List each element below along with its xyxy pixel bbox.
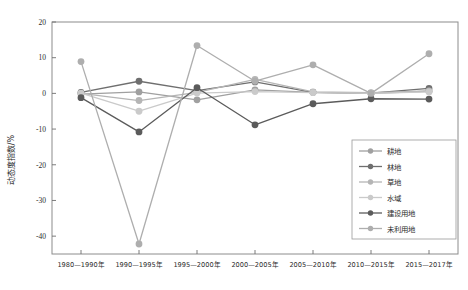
x-tick-label: 2015—2017年	[405, 260, 452, 269]
data-point	[136, 89, 143, 96]
x-axis: 1980—1990年1990—1995年1995—2000年2000—2005年…	[57, 250, 452, 269]
y-axis-title: 动态度指数/%	[6, 134, 16, 185]
data-point	[252, 78, 259, 85]
y-tick-label: -30	[36, 196, 46, 205]
x-tick-label: 2005—2010年	[289, 260, 336, 269]
data-point	[426, 89, 433, 96]
legend-item-3[interactable]: 草地	[359, 178, 402, 187]
series-layer	[78, 42, 433, 247]
data-point	[368, 90, 375, 97]
series-line	[81, 46, 429, 244]
dynamic-degree-index-line-chart: 20100-10-20-30-40 动态度指数/% 1980—1990年1990…	[0, 0, 468, 290]
data-point	[78, 58, 85, 65]
legend-label: 草地	[387, 178, 402, 187]
data-point	[136, 129, 143, 136]
legend-marker-icon	[368, 148, 373, 153]
legend-marker-icon	[368, 179, 373, 184]
y-tick-label: -20	[36, 161, 46, 170]
legend-label: 林地	[387, 163, 402, 172]
data-point	[252, 121, 259, 128]
y-axis: 20100-10-20-30-40	[36, 18, 56, 241]
data-point	[136, 241, 143, 248]
chart-legend: 耕地林地草地水域建设用地未利用地	[352, 140, 456, 239]
data-point	[310, 100, 317, 107]
data-point	[194, 84, 201, 91]
legend-marker-icon	[368, 164, 373, 169]
legend-marker-icon	[368, 226, 373, 231]
legend-label: 建设用地	[387, 209, 416, 218]
y-tick-label: -40	[36, 232, 46, 241]
x-tick-label: 1990—1995年	[115, 260, 162, 269]
data-point	[252, 88, 259, 95]
data-point	[78, 94, 85, 101]
plot-frame	[52, 22, 458, 254]
data-point	[194, 42, 201, 49]
legend-item-5[interactable]: 建设用地	[359, 209, 416, 218]
legend-label: 未利用地	[387, 225, 416, 234]
legend-item-6[interactable]: 未利用地	[359, 225, 416, 234]
legend-marker-icon	[368, 195, 373, 200]
legend-item-1[interactable]: 耕地	[359, 147, 402, 156]
data-point	[136, 78, 143, 85]
data-point	[426, 50, 433, 57]
y-tick-label: -10	[36, 125, 46, 134]
legend-item-2[interactable]: 林地	[359, 163, 402, 172]
data-point	[426, 96, 433, 103]
data-point	[136, 108, 143, 115]
chart-container: 20100-10-20-30-40 动态度指数/% 1980—1990年1990…	[0, 0, 468, 290]
legend-marker-icon	[368, 210, 373, 215]
y-tick-label: 0	[42, 89, 46, 98]
series-6	[78, 42, 433, 247]
legend-label: 耕地	[387, 147, 402, 156]
x-tick-label: 1995—2000年	[173, 260, 220, 269]
data-point	[136, 97, 143, 104]
data-point	[310, 61, 317, 68]
x-tick-label: 2010—2015年	[347, 260, 394, 269]
legend-item-4[interactable]: 水域	[359, 194, 402, 203]
y-tick-label: 20	[39, 18, 47, 27]
legend-label: 水域	[387, 194, 402, 203]
data-point	[310, 89, 317, 96]
x-tick-label: 2000—2005年	[231, 260, 278, 269]
data-point	[194, 96, 201, 103]
y-tick-label: 10	[39, 53, 47, 62]
x-tick-label: 1980—1990年	[57, 260, 104, 269]
